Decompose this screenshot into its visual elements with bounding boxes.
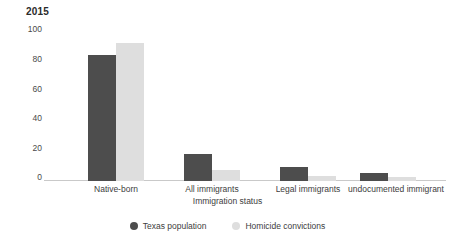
plot-area [48,24,446,181]
bar-texas-population-all-immigrants [184,154,212,181]
legend-swatch-icon-homicide-convictions [232,222,240,230]
bar-chart: 2015 100 80 60 40 20 0 [0,0,455,250]
bar-group-3 [342,24,434,181]
bar-group-2 [262,24,354,181]
bar-group-1 [166,24,258,181]
legend-item-texas-population[interactable]: Texas population [130,221,207,231]
y-tick-20: 20 [33,143,42,153]
x-axis-title: Immigration status [0,196,455,206]
x-tick-label-native-born: Native-born [70,184,162,194]
y-axis: 100 80 60 40 20 0 [14,0,42,181]
y-tick-60: 60 [33,84,42,94]
y-tick-80: 80 [33,54,42,64]
legend-label-homicide-convictions: Homicide convictions [245,221,325,231]
bar-texas-population-undocumented-immigrant [360,173,388,181]
y-tick-0: 0 [37,172,42,182]
bar-homicide-convictions-native-born [116,43,144,181]
chart-legend: Texas population Homicide convictions [0,221,455,231]
legend-item-homicide-convictions[interactable]: Homicide convictions [232,221,325,231]
bar-homicide-convictions-undocumented-immigrant [388,177,416,181]
y-tick-100: 100 [28,24,42,34]
bar-texas-population-native-born [88,55,116,181]
legend-swatch-icon-texas-population [130,222,138,230]
legend-label-texas-population: Texas population [143,221,207,231]
x-tick-label-all-immigrants: All immigrants [166,184,258,194]
bar-group-0 [70,24,162,181]
bar-homicide-convictions-all-immigrants [212,170,240,181]
x-tick-label-undocumented-immigrant: undocumented immigrant [340,184,452,194]
bar-homicide-convictions-legal-immigrants [308,176,336,181]
y-tick-40: 40 [33,113,42,123]
bar-texas-population-legal-immigrants [280,167,308,181]
